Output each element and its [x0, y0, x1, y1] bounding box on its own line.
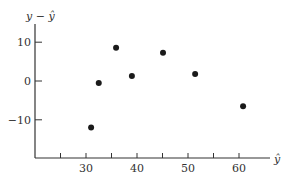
data-point: [240, 103, 246, 109]
x-tick-label: 50: [181, 162, 195, 175]
data-point: [113, 45, 119, 51]
data-point: [192, 71, 198, 77]
axes: 30405060100−10y − ŷŷ: [8, 10, 281, 175]
y-axis-title: y − ŷ: [25, 10, 55, 23]
data-point: [96, 80, 102, 86]
x-tick-label: 40: [130, 162, 144, 175]
x-axis-title: ŷ: [273, 153, 281, 166]
y-tick-label: 10: [17, 36, 31, 49]
x-tick-label: 30: [79, 162, 93, 175]
data-points: [88, 45, 246, 131]
data-point: [129, 73, 135, 79]
x-tick-label: 60: [232, 162, 246, 175]
y-tick-label: 0: [24, 75, 31, 88]
data-point: [88, 125, 94, 131]
y-tick-label: −10: [8, 114, 31, 127]
data-point: [160, 50, 166, 56]
residual-scatter-plot: 30405060100−10y − ŷŷ: [0, 0, 291, 183]
